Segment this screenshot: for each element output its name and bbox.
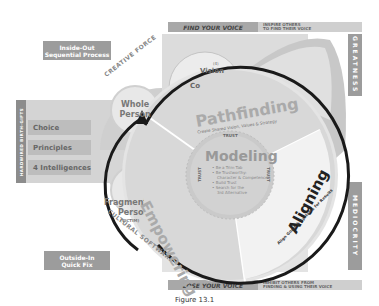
trust-top: TRUST (223, 133, 238, 138)
trust-left: TRUST (197, 167, 202, 182)
vision-number: (4) (213, 61, 219, 66)
whole-person-line-2: Person (117, 110, 153, 120)
whole-person-label: Whole Person (117, 100, 153, 120)
modeling-label: Modeling (205, 148, 278, 164)
conscience-label-partial: Co (190, 82, 200, 90)
whole-person-line-1: Whole (117, 100, 153, 110)
modeling-bullets: • Be a Trim Tab • Be Trustworthy: Charac… (212, 165, 268, 195)
bullet-3rd-alt: 3rd Alternative (212, 190, 268, 195)
voice-wheel-diagram (0, 0, 379, 306)
vision-label: Vision (200, 67, 224, 75)
fragmented-note: (VICTIM) (104, 218, 144, 223)
